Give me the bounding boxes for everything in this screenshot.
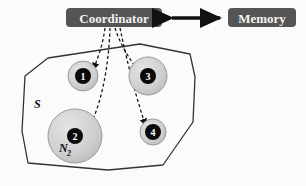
coordinator-box-label: Coordinator [79,11,149,26]
set-region-label: S [34,97,41,111]
set-region-polygon [22,44,195,170]
agent-number-2: 2 [73,131,78,142]
neighbourhood-label-n2-subscript: 2 [66,149,71,158]
agent-number-4: 4 [151,127,156,138]
system-architecture-diagram: S 1 3 2 N 2 4 [0,0,306,186]
agent-node-4[interactable]: 4 [140,119,166,145]
agent-number-3: 3 [146,71,151,82]
agent-node-2[interactable]: 2 N 2 [48,109,102,163]
memory-box-label: Memory [238,11,286,26]
agent-number-1: 1 [81,71,86,82]
agent-node-1[interactable]: 1 [68,61,98,91]
agent-node-3[interactable]: 3 [129,57,167,95]
memory-box[interactable]: Memory [228,8,296,27]
diagram-root: S 1 3 2 N 2 4 [0,0,306,186]
coordinator-box[interactable]: Coordinator [66,8,162,27]
